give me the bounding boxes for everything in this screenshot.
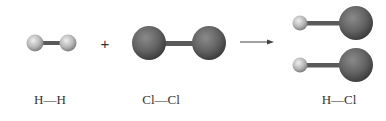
hydrogen-atom — [27, 35, 44, 52]
hcl-molecule — [293, 6, 374, 40]
hcl-molecule — [293, 48, 374, 82]
chlorine-atom — [132, 26, 166, 60]
chlorine-atom — [339, 48, 373, 82]
h2-molecule — [27, 35, 77, 52]
cl2-label: Cl—Cl — [142, 92, 180, 108]
h2-label: H—H — [34, 92, 66, 108]
cl2-molecule — [132, 26, 226, 60]
hydrogen-atom — [293, 58, 308, 73]
chlorine-atom — [192, 26, 226, 60]
plus-sign: + — [101, 35, 110, 52]
hydrogen-atom — [60, 35, 77, 52]
hcl-label: H—Cl — [322, 92, 357, 108]
reaction-arrow-icon — [240, 40, 274, 45]
chlorine-atom — [339, 6, 373, 40]
hydrogen-atom — [293, 16, 308, 31]
reaction-diagram: + H—H Cl—Cl H—Cl — [0, 0, 386, 121]
